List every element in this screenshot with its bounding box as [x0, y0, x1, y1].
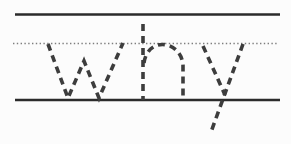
handwriting-worksheet	[0, 0, 291, 144]
traced-letter-h-stroke	[144, 45, 183, 100]
traced-letter-w	[48, 43, 123, 98]
traced-letter-y	[203, 44, 243, 132]
handwriting-canvas	[0, 0, 291, 144]
traced-letter-y-stroke	[211, 44, 243, 132]
traced-letter-y-stroke	[203, 46, 225, 95]
traced-letter-h	[143, 24, 183, 100]
traced-letter-w-stroke	[48, 43, 123, 98]
